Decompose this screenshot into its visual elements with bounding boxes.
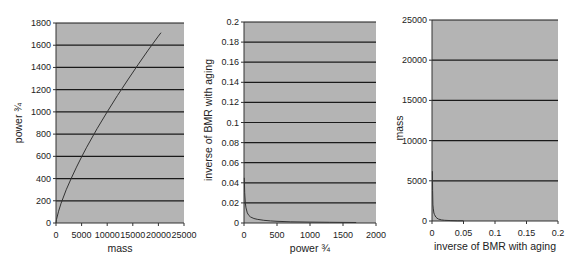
chart-mass-vs-inverse-bmr: 050001000015000200002500000.050.10.150.2… [0,0,584,277]
x-tick-label: 0.1 [489,228,502,238]
y-tick-label: 10000 [402,136,427,146]
y-tick-label: 20000 [402,55,427,65]
y-tick-label: 5000 [407,176,427,186]
x-axis-title: inverse of BMR with aging [434,240,556,252]
y-axis-title: mass [393,115,405,140]
y-tick-label: 15000 [402,95,427,105]
x-tick-label: 0.15 [518,228,536,238]
x-tick-label: 0.2 [552,228,565,238]
plot-area [432,20,558,221]
y-tick-label: 25000 [402,15,427,25]
y-tick-label: 0 [422,216,427,226]
chart-panel-row: 0200400600800100012001400160018000500010… [0,0,584,277]
x-tick-label: 0 [429,228,434,238]
x-tick-label: 0.05 [455,228,473,238]
